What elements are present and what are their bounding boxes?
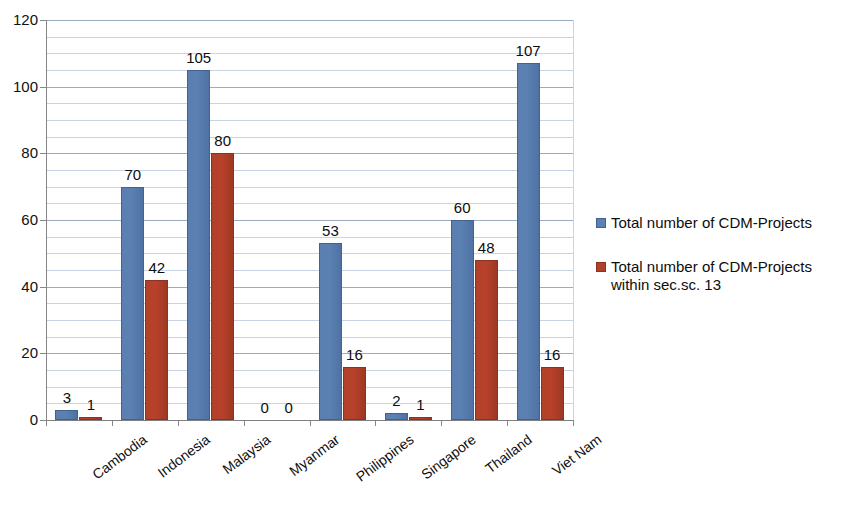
x-axis-label-indonesia: Indonesia [155,432,212,480]
x-axis-tick-mark [507,420,508,426]
y-axis-tick-label: 0 [0,412,38,427]
legend-swatch-series-0 [596,218,606,228]
x-axis-tick-mark [112,420,113,426]
plot-area: 3170421058000531621604810716 [46,20,573,420]
x-axis-label-cambodia: Cambodia [90,432,149,482]
plot-right-border [573,20,574,420]
bar-value-label: 105 [179,50,219,65]
x-axis-label-malaysia: Malaysia [220,432,273,476]
bar-value-label: 0 [269,400,309,415]
bar-value-label: 80 [203,133,243,148]
x-axis-label-viet-nam: Viet Nam [550,432,604,478]
legend-label: Total number of CDM-Projects [611,214,812,232]
bar-singapore-series-1 [409,417,432,420]
x-axis-tick-mark [441,420,442,426]
gridline-major [46,87,573,88]
legend-entry-1[interactable]: Total number of CDM-Projects within sec.… [596,258,854,294]
legend-entry-0[interactable]: Total number of CDM-Projects [596,214,854,232]
bar-value-label: 107 [508,43,548,58]
bar-malaysia-series-1 [211,153,234,420]
x-axis-tick-mark [244,420,245,426]
legend-label: Total number of CDM-Projects within sec.… [611,258,854,294]
bar-value-label: 53 [310,223,350,238]
bar-viet-nam-series-0 [517,63,540,420]
chart-legend: Total number of CDM-ProjectsTotal number… [596,214,854,320]
gridline-minor [46,103,573,104]
bar-value-label: 48 [466,240,506,255]
bar-value-label: 42 [137,260,177,275]
bar-indonesia-series-0 [121,187,144,420]
x-axis-tick-mark [573,420,574,426]
x-axis-label-singapore: Singapore [419,432,478,482]
bar-philippines-series-0 [319,243,342,420]
x-axis-label-myanmar: Myanmar [286,432,341,478]
gridline-minor [46,70,573,71]
gridline-minor [46,37,573,38]
x-axis-tick-mark [178,420,179,426]
y-axis-tick-label: 120 [0,12,38,27]
bar-malaysia-series-0 [187,70,210,420]
gridline-minor [46,53,573,54]
bar-value-label: 16 [334,347,374,362]
bar-cambodia-series-1 [79,417,102,420]
bar-value-label: 1 [71,397,111,412]
bar-thailand-series-1 [475,260,498,420]
x-axis-tick-mark [375,420,376,426]
bar-value-label: 60 [442,200,482,215]
gridline-minor [46,137,573,138]
gridline-major [46,153,573,154]
y-axis-tick-label: 100 [0,79,38,94]
bar-viet-nam-series-1 [541,367,564,420]
bar-value-label: 1 [400,397,440,412]
x-axis-tick-mark [46,420,47,426]
bar-chart: 020406080100120 317042105800053162160481… [0,0,858,507]
gridline-minor [46,120,573,121]
x-axis-tick-mark [310,420,311,426]
y-axis-tick-label: 80 [0,145,38,160]
gridline-major [46,20,573,21]
x-axis-label-philippines: Philippines [354,432,417,484]
y-axis-line [46,20,47,420]
y-axis-tick-label: 60 [0,212,38,227]
bar-value-label: 16 [532,347,572,362]
bar-indonesia-series-1 [145,280,168,420]
bar-value-label: 70 [113,167,153,182]
bar-philippines-series-1 [343,367,366,420]
y-axis-tick-label: 40 [0,279,38,294]
legend-swatch-series-1 [596,262,606,272]
y-axis-tick-label: 20 [0,345,38,360]
bar-singapore-series-0 [385,413,408,420]
x-axis-label-thailand: Thailand [483,432,534,476]
